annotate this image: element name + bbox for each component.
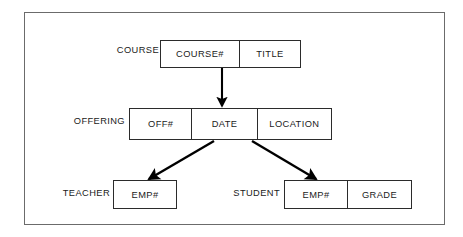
field-cell-offering-date: DATE	[192, 109, 257, 139]
diagram-canvas: COURSE COURSE# TITLE OFFERING OFF# DATE …	[0, 0, 463, 237]
field-cell-offering-offnum: OFF#	[130, 109, 192, 139]
record-box-course[interactable]: COURSE# TITLE	[160, 40, 301, 68]
record-box-student[interactable]: EMP# GRADE	[284, 180, 412, 209]
entity-label-course: COURSE	[107, 46, 159, 55]
entity-label-student: STUDENT	[222, 189, 280, 198]
entity-label-teacher: TEACHER	[52, 189, 110, 198]
field-cell-student-grade: GRADE	[348, 181, 411, 208]
field-cell-student-empnum: EMP#	[285, 181, 348, 208]
record-box-offering[interactable]: OFF# DATE LOCATION	[129, 108, 332, 140]
entity-label-offering: OFFERING	[62, 117, 125, 126]
field-cell-teacher-empnum: EMP#	[114, 181, 176, 208]
field-cell-offering-location: LOCATION	[258, 109, 331, 139]
field-cell-course-coursenum: COURSE#	[161, 41, 240, 67]
record-box-teacher[interactable]: EMP#	[113, 180, 177, 209]
field-cell-course-title: TITLE	[240, 41, 300, 67]
